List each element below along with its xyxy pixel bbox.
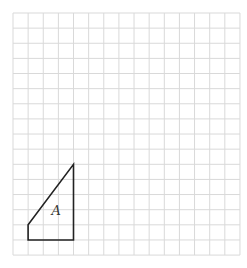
square-grid [13, 13, 240, 255]
grid-diagram: A [0, 0, 247, 268]
shape-label: A [50, 203, 60, 218]
